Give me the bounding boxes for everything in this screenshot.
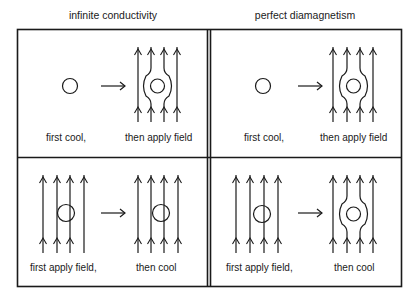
label-bottom-left-after: then cool <box>136 262 177 273</box>
arrow-icon <box>101 209 125 217</box>
label-bottom-right-before: first apply field, <box>226 262 293 273</box>
sample-circle <box>153 205 170 222</box>
frame <box>18 30 402 287</box>
sample-circle <box>256 79 271 94</box>
label-top-left-before: first cool, <box>46 132 86 143</box>
panel-top-right <box>256 47 377 122</box>
panel-bottom-right <box>233 175 377 253</box>
label-bottom-left-before: first apply field, <box>30 262 97 273</box>
arrow-icon <box>298 209 322 217</box>
panel-bottom-left <box>40 175 182 253</box>
label-top-right-before: first cool, <box>244 132 284 143</box>
arrow-icon <box>298 82 322 90</box>
arrow-icon <box>101 82 125 90</box>
sample-circle <box>63 79 78 94</box>
diagram-canvas <box>0 0 419 301</box>
label-bottom-right-after: then cool <box>334 262 375 273</box>
panel-top-left <box>63 47 181 122</box>
label-top-right-after: then apply field <box>320 132 387 143</box>
sample-circle <box>254 206 271 223</box>
sample-circle <box>58 205 75 222</box>
label-top-left-after: then apply field <box>125 132 192 143</box>
